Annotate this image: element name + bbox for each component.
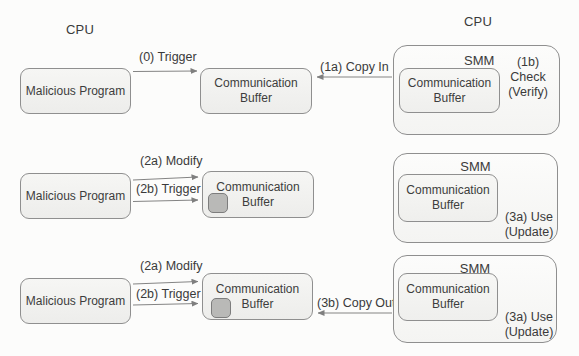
smm-title-row2: SMM xyxy=(394,159,557,174)
malicious-program-box-row1: Malicious Program xyxy=(20,68,131,114)
smm-box-row2: SMM Communication Buffer (3a) Use (Updat… xyxy=(393,153,558,243)
malicious-program-box-row3: Malicious Program xyxy=(20,278,131,324)
smm-communication-buffer-box-row3: Communication Buffer xyxy=(398,273,498,321)
cpu-right-label: CPU xyxy=(464,14,492,29)
arrow-trigger-row3 xyxy=(133,304,198,306)
trigger-label-row2: (2b) Trigger xyxy=(136,182,201,196)
arrow-modify-row3 xyxy=(133,282,198,285)
communication-buffer-label-row1: Communication Buffer xyxy=(210,76,302,106)
check-verify-note: (1b) Check (Verify) xyxy=(498,55,558,100)
communication-buffer-box-row2: Communication Buffer xyxy=(202,171,314,218)
cpu-left-label: CPU xyxy=(66,22,94,37)
malicious-program-label-row2: Malicious Program xyxy=(26,189,125,204)
malicious-program-box-row2: Malicious Program xyxy=(20,173,131,219)
trigger-label-row3: (2b) Trigger xyxy=(136,287,201,301)
smm-box-row3: SMM Communication Buffer (3a) Use (Updat… xyxy=(393,255,557,343)
modify-label-row3: (2a) Modify xyxy=(140,259,203,273)
malicious-program-label-row3: Malicious Program xyxy=(26,294,125,309)
smm-communication-buffer-label-row1: Communication Buffer xyxy=(405,76,495,106)
arrow-modify-row2 xyxy=(133,177,198,180)
smm-communication-buffer-box-row1: Communication Buffer xyxy=(399,68,500,113)
trigger-0-label: (0) Trigger xyxy=(139,50,197,64)
smm-communication-buffer-box-row2: Communication Buffer xyxy=(398,174,498,222)
use-update-note-row3: (3a) Use (Update) xyxy=(502,310,556,340)
check-note-line2: (Verify) xyxy=(498,85,558,100)
modified-data-chip-row3 xyxy=(211,298,231,318)
arrow-trigger-0 xyxy=(133,71,197,72)
copy-out-label: (3b) Copy Out xyxy=(317,296,396,310)
diagram-canvas: CPU CPU Malicious Program (0) Trigger Co… xyxy=(0,0,579,356)
smm-communication-buffer-label-row3: Communication Buffer xyxy=(403,282,493,312)
use-note-line1-row2: (3a) Use xyxy=(502,210,556,225)
communication-buffer-box-row1: Communication Buffer xyxy=(200,68,312,114)
use-update-note-row2: (3a) Use (Update) xyxy=(502,210,556,240)
smm-communication-buffer-label-row2: Communication Buffer xyxy=(403,183,493,213)
use-note-line1-row3: (3a) Use xyxy=(502,310,556,325)
smm-box-row1: SMM Communication Buffer (1b) Check (Ver… xyxy=(393,45,560,135)
modify-label-row2: (2a) Modify xyxy=(140,154,203,168)
check-note-line1: (1b) Check xyxy=(498,55,558,85)
copy-in-label: (1a) Copy In xyxy=(320,60,389,74)
malicious-program-label-row1: Malicious Program xyxy=(26,84,125,99)
use-note-line2-row3: (Update) xyxy=(502,325,556,340)
communication-buffer-box-row3: Communication Buffer xyxy=(202,273,313,320)
arrow-trigger-row2 xyxy=(133,200,198,202)
use-note-line2-row2: (Update) xyxy=(502,225,556,240)
modified-data-chip-row2 xyxy=(208,193,228,213)
smm-title-row1: SMM xyxy=(464,53,494,68)
